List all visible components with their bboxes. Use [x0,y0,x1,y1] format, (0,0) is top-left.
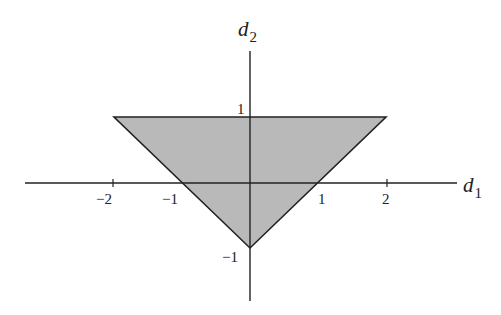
tick-label-x-minus2: −2 [96,191,112,207]
y-axis-label: d2 [238,17,257,45]
tick-label-x-1: 1 [318,191,326,207]
diagram-canvas: −2 −1 1 2 1 −1 d2 d1 [0,0,501,315]
x-axis-label-main: d [463,173,474,197]
x-axis-label-sub: 1 [475,185,483,201]
tick-label-y-minus1: −1 [222,249,238,265]
x-axis-label: d1 [463,173,482,201]
y-axis-label-main: d [238,17,249,41]
y-axis-label-sub: 2 [250,29,258,45]
tick-label-x-minus1: −1 [162,191,178,207]
tick-label-x-2: 2 [382,191,390,207]
tick-label-y-1: 1 [237,101,245,117]
feasible-region-plot: −2 −1 1 2 1 −1 d2 d1 [0,0,501,315]
